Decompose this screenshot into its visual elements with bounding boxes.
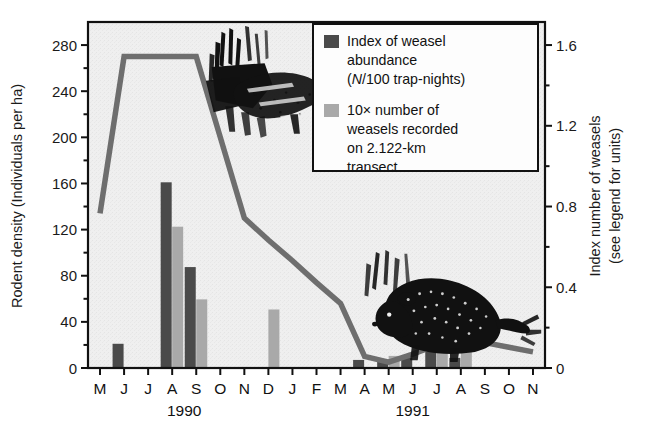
legend-trap-nights: /100 trap-nights) <box>362 71 465 87</box>
legend-label-weasel-abundance-line1: Index of weasel <box>347 33 446 49</box>
right-tick-label-1.2: 1.2 <box>556 117 577 134</box>
right-tick-label-0: 0 <box>556 360 564 377</box>
x-axis-month-label-0: M <box>94 380 107 397</box>
x-axis-month-label-7: D <box>263 380 274 397</box>
x-axis-year-label-1990: 1990 <box>167 402 202 419</box>
left-tick-label-120: 120 <box>52 221 77 238</box>
left-tick-label-200: 200 <box>52 129 77 146</box>
x-axis-year-label-1991: 1991 <box>395 402 429 419</box>
bar-weasel-abundance-A-3 <box>161 182 172 368</box>
legend-label-transect-line1: 10× number of <box>347 102 439 118</box>
x-axis-month-label-14: J <box>433 380 441 397</box>
legend-label-weasel-abundance-line2: abundance <box>347 52 417 68</box>
legend-swatch-transect-count <box>324 104 339 117</box>
x-axis-month-label-12: M <box>382 380 395 397</box>
left-axis-title: Rodent density (Individuals per ha) <box>9 84 25 308</box>
chart-svg: Index of weasel abundance (N/100 trap-ni… <box>0 0 650 441</box>
x-axis-month-label-2: J <box>144 380 152 397</box>
x-axis-month-label-11: A <box>359 380 370 397</box>
bar-transect-count-S-4 <box>196 299 207 368</box>
legend-label-transect-line4: transect <box>347 159 398 175</box>
rodent-weasel-chart-figure: Index of weasel abundance (N/100 trap-ni… <box>0 0 650 441</box>
right-axis-title-line1: Index number of weasels <box>587 115 603 276</box>
bar-weasel-abundance-A-11 <box>353 360 364 368</box>
bar-transect-count-D-7 <box>268 309 279 368</box>
right-tick-label-0.4: 0.4 <box>556 279 577 296</box>
legend-swatch-weasel-abundance <box>324 35 339 48</box>
x-axis-month-label-18: N <box>527 380 538 397</box>
plot-area: Index of weasel abundance (N/100 trap-ni… <box>88 22 545 368</box>
right-tick-label-1.6: 1.6 <box>556 37 577 54</box>
right-tick-label-0.8: 0.8 <box>556 198 577 215</box>
x-axis-month-label-1: J <box>120 380 128 397</box>
legend-label-weasel-abundance-line3: (N/100 trap-nights) <box>347 71 465 87</box>
right-axis-title-line2: (see legend for units) <box>607 128 623 264</box>
x-axis-month-label-9: F <box>312 380 321 397</box>
x-axis-month-label-5: O <box>214 380 226 397</box>
x-axis-month-label-16: S <box>480 380 490 397</box>
left-tick-label-160: 160 <box>52 175 77 192</box>
legend-label-transect-line3: on 2.122-km <box>347 140 426 156</box>
legend-label-transect-line2: weasels recorded <box>346 121 458 137</box>
left-tick-label-240: 240 <box>52 83 77 100</box>
x-axis-month-label-4: S <box>191 380 201 397</box>
bar-transect-count-A-3 <box>172 227 183 368</box>
bar-weasel-abundance-J-1 <box>113 344 124 368</box>
x-axis-month-label-6: N <box>239 380 250 397</box>
x-axis-month-label-13: J <box>409 380 417 397</box>
left-tick-label-40: 40 <box>60 313 77 330</box>
left-tick-label-80: 80 <box>60 267 77 284</box>
x-axis-month-label-3: A <box>167 380 178 397</box>
x-axis-month-label-10: M <box>334 380 347 397</box>
left-tick-label-0: 0 <box>69 360 77 377</box>
bar-weasel-abundance-S-4 <box>185 267 196 368</box>
chart-legend: Index of weasel abundance (N/100 trap-ni… <box>313 24 538 175</box>
left-tick-label-280: 280 <box>52 37 77 54</box>
x-axis-month-label-15: A <box>456 380 467 397</box>
x-axis-month-label-17: O <box>503 380 515 397</box>
x-axis-month-label-8: J <box>289 380 297 397</box>
